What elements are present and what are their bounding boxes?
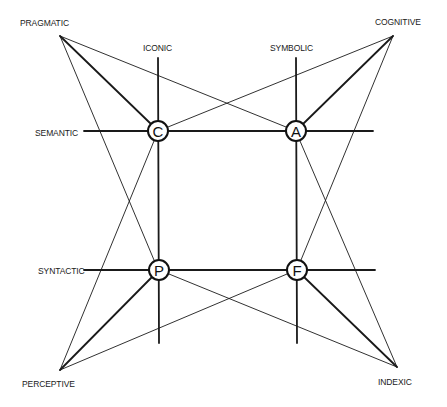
line-pragmatic-c — [60, 36, 151, 124]
node-a: A — [286, 121, 306, 141]
diagram-canvas: C A P F — [0, 0, 447, 407]
node-p-letter: P — [154, 262, 164, 279]
semiotic-diagram: C A P F PRAGMATIC COGNITIVE PERCEPTIVE I… — [0, 0, 447, 407]
line-perceptive-c — [60, 141, 154, 370]
label-cognitive: COGNITIVE — [375, 18, 421, 27]
thick-connections — [60, 36, 397, 370]
node-a-letter: A — [291, 123, 301, 140]
node-p: P — [149, 260, 169, 280]
label-syntactic: SYNTACTIC — [38, 267, 85, 276]
line-pragmatic-p — [60, 36, 154, 260]
node-f: F — [287, 260, 307, 280]
line-indexic-f — [304, 277, 397, 367]
label-symbolic: SYMBOLIC — [270, 44, 313, 53]
node-c-letter: C — [153, 123, 164, 140]
line-perceptive-f — [60, 274, 287, 370]
line-cognitive-f — [301, 36, 393, 260]
label-iconic: ICONIC — [143, 44, 172, 53]
axis-iconic-line — [158, 58, 159, 343]
label-indexic: INDEXIC — [378, 378, 412, 387]
node-c: C — [148, 121, 168, 141]
line-cognitive-a — [303, 36, 393, 124]
axis-symbolic-line — [296, 58, 297, 343]
label-perceptive: PERCEPTIVE — [22, 380, 75, 389]
label-pragmatic: PRAGMATIC — [20, 19, 69, 28]
node-f-letter: F — [292, 262, 301, 279]
line-pragmatic-a — [60, 36, 286, 127]
line-perceptive-p — [60, 277, 152, 370]
label-semantic: SEMANTIC — [35, 129, 78, 138]
